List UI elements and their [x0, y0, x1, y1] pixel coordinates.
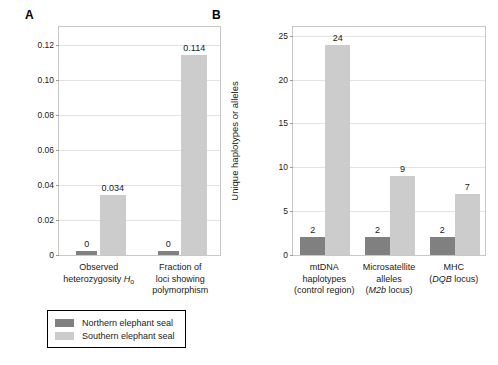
bar-southern [325, 45, 350, 255]
y-tick-label: 0.04 [37, 180, 54, 190]
bar-value-label: 2 [310, 225, 315, 235]
bar-northern [430, 237, 455, 255]
y-tick-mark [56, 115, 59, 116]
bar-value-label: 9 [400, 164, 405, 174]
y-tick-mark [56, 45, 59, 46]
bar-value-label: 2 [375, 225, 380, 235]
panel-letter-a: A [25, 8, 34, 22]
bar-northern [158, 251, 179, 255]
y-tick-mark [56, 185, 59, 186]
x-category-label: MHC(DQB locus) [429, 262, 478, 285]
y-tick-mark [290, 36, 293, 37]
gridline [293, 80, 485, 81]
gridline [293, 123, 485, 124]
bar-southern [181, 55, 207, 255]
y-axis-title-b: Unique haplotypes or alleles [229, 81, 240, 200]
gridline [293, 167, 485, 168]
y-tick-label: 0.10 [37, 75, 54, 85]
bar-southern [455, 194, 480, 255]
y-tick-label: 0 [283, 250, 288, 260]
y-tick-label: 10 [279, 162, 288, 172]
figure-root: A 00.020.040.060.080.100.12 00.03400.114… [0, 0, 498, 365]
legend-item: Southern elephant seal [55, 329, 175, 342]
x-category-label: Microsatellitealleles(M2b locus) [363, 262, 416, 297]
y-tick-mark [290, 123, 293, 124]
legend: Northern elephant sealSouthern elephant … [47, 310, 186, 348]
y-tick-label: 0.12 [37, 40, 54, 50]
y-tick-label: 0.02 [37, 215, 54, 225]
bar-southern [100, 195, 126, 255]
legend-swatch-southern [55, 332, 74, 340]
y-tick-label: 15 [279, 118, 288, 128]
plot-area-b: 0510152025 2242927 [292, 26, 486, 256]
legend-label: Southern elephant seal [82, 331, 175, 341]
bar-value-label: 0 [166, 239, 171, 249]
y-tick-mark [56, 150, 59, 151]
bar-value-label: 2 [440, 225, 445, 235]
bar-northern [300, 237, 325, 255]
panel-b: Unique haplotypes or alleles 0510152025 … [228, 22, 490, 297]
y-tick-mark [56, 220, 59, 221]
panel-letter-b: B [212, 8, 221, 22]
x-category-label: Fraction ofloci showingpolymorphism [152, 262, 208, 297]
legend-label: Northern elephant seal [82, 318, 173, 328]
legend-swatch-northern [55, 319, 74, 327]
panel-a: 00.020.040.060.080.100.12 00.03400.114 O… [10, 22, 225, 297]
bar-northern [76, 251, 97, 255]
y-tick-label: 0 [49, 250, 54, 260]
x-category-label: mtDNAhaplotypes(control region) [294, 262, 355, 297]
y-tick-mark [56, 80, 59, 81]
bar-northern [365, 237, 390, 255]
bar-value-label: 0.034 [101, 183, 124, 193]
bar-southern [390, 176, 415, 255]
plot-area-a: 00.020.040.060.080.100.12 00.03400.114 [58, 26, 221, 256]
bar-value-label: 0.114 [183, 43, 205, 53]
bar-value-label: 7 [465, 182, 470, 192]
y-tick-label: 20 [279, 75, 288, 85]
y-tick-mark [56, 255, 59, 256]
y-tick-mark [290, 167, 293, 168]
y-tick-mark [290, 211, 293, 212]
y-tick-label: 0.08 [37, 110, 54, 120]
y-tick-label: 25 [279, 31, 288, 41]
y-tick-mark [290, 255, 293, 256]
x-category-label: Observedheterozygosity Ho [63, 262, 134, 285]
gridline [293, 36, 485, 37]
bar-value-label: 24 [333, 33, 343, 43]
legend-item: Northern elephant seal [55, 316, 175, 329]
y-tick-mark [290, 80, 293, 81]
y-tick-label: 0.06 [37, 145, 54, 155]
y-tick-label: 5 [283, 206, 288, 216]
bar-value-label: 0 [84, 239, 89, 249]
